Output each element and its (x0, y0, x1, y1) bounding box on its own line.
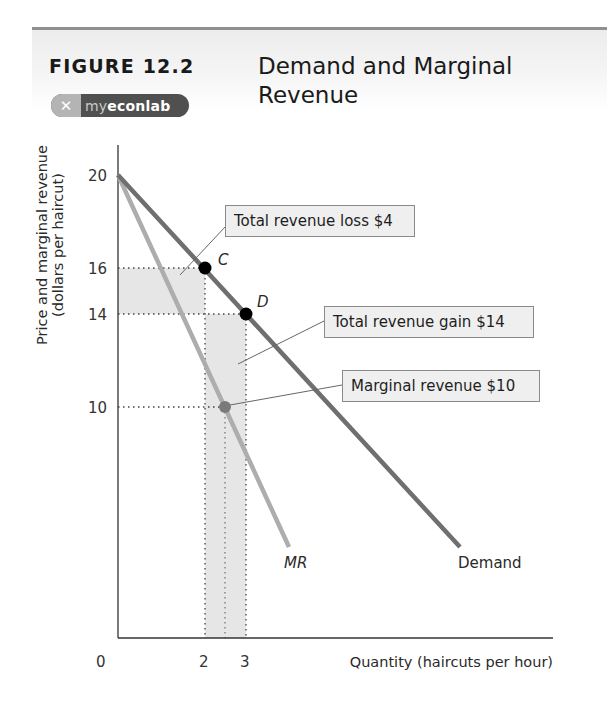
y-tick-14: 14 (88, 306, 107, 324)
y-tick-20: 20 (88, 167, 107, 185)
callout-revenue-loss: Total revenue loss $4 (225, 205, 415, 237)
callout-leaders (180, 226, 342, 405)
y-axis-title-line2: (dollars per haircut) (50, 173, 66, 317)
y-tick-10: 10 (88, 399, 107, 417)
point-mr-10 (219, 401, 231, 413)
point-d (240, 308, 253, 321)
point-d-label: D (257, 293, 269, 311)
point-c (199, 262, 212, 275)
point-c-label: C (218, 251, 229, 269)
mr-curve-label: MR (284, 554, 307, 572)
y-tick-16: 16 (88, 260, 107, 278)
chart-canvas: C D MR Demand 20 16 14 10 0 2 3 Quantity… (0, 0, 607, 705)
callout-revenue-gain: Total revenue gain $14 (324, 306, 534, 338)
x-tick-0: 0 (96, 653, 106, 671)
x-tick-2: 2 (199, 653, 209, 671)
x-tick-3: 3 (240, 653, 250, 671)
y-axis-title: Price and marginal revenue (dollars per … (34, 145, 66, 345)
x-axis-title: Quantity (haircuts per hour) (350, 654, 553, 670)
demand-curve-label: Demand (458, 554, 522, 572)
callout-marginal-revenue: Marginal revenue $10 (342, 370, 540, 402)
y-axis-title-line1: Price and marginal revenue (34, 145, 50, 345)
